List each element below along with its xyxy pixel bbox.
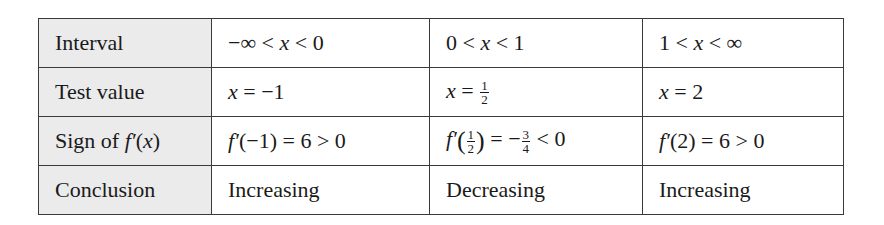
table-row-conclusion: Conclusion Increasing Decreasing Increas… <box>39 166 844 215</box>
row-header-interval: Interval <box>39 19 212 68</box>
function-f: f′ <box>446 126 457 151</box>
numerator: 1 <box>467 128 476 142</box>
cell-sign-1: f′(−1) = 6 > 0 <box>212 117 430 166</box>
cell-interval-3: 1 < x < ∞ <box>643 19 844 68</box>
text: = − <box>485 126 521 151</box>
text: (2) = 6 > 0 <box>670 128 764 153</box>
numerator: 3 <box>522 128 531 142</box>
text: ) <box>153 128 160 153</box>
paren: ( <box>457 126 466 155</box>
table-row-interval: Interval −∞ < x < 0 0 < x < 1 1 < x < ∞ <box>39 19 844 68</box>
row-header-sign: Sign of f′(x) <box>39 117 212 166</box>
text: = −1 <box>238 79 285 104</box>
text: Sign of <box>55 128 125 153</box>
function-f: f′ <box>659 128 670 153</box>
table-row-sign: Sign of f′(x) f′(−1) = 6 > 0 f′(12) = −3… <box>39 117 844 166</box>
var-x: x <box>693 30 703 55</box>
numerator: 1 <box>480 79 489 93</box>
var-x: x <box>228 79 238 104</box>
cell-test-value-2: x = 12 <box>430 68 643 117</box>
text: −∞ < <box>228 30 280 55</box>
var-x: x <box>280 30 290 55</box>
text: < 1 <box>490 30 524 55</box>
fraction: 34 <box>522 128 531 155</box>
text: < ∞ <box>703 30 742 55</box>
cell-test-value-3: x = 2 <box>643 68 844 117</box>
cell-test-value-1: x = −1 <box>212 68 430 117</box>
text: 1 < <box>659 30 693 55</box>
cell-interval-2: 0 < x < 1 <box>430 19 643 68</box>
table-row-test-value: Test value x = −1 x = 12 x = 2 <box>39 68 844 117</box>
function-f: f′ <box>125 128 136 153</box>
var-x: x <box>143 128 153 153</box>
row-header-test-value: Test value <box>39 68 212 117</box>
var-x: x <box>446 78 456 103</box>
text: < 0 <box>289 30 323 55</box>
text: = 2 <box>669 79 703 104</box>
text: (−1) = 6 > 0 <box>239 128 346 153</box>
sign-analysis-table: Interval −∞ < x < 0 0 < x < 1 1 < x < ∞ … <box>38 18 844 215</box>
row-header-conclusion: Conclusion <box>39 166 212 215</box>
cell-interval-1: −∞ < x < 0 <box>212 19 430 68</box>
text: 0 < <box>446 30 480 55</box>
text: = <box>456 78 479 103</box>
fraction: 12 <box>467 128 476 155</box>
denominator: 2 <box>480 93 489 106</box>
cell-conclusion-1: Increasing <box>212 166 430 215</box>
cell-conclusion-3: Increasing <box>643 166 844 215</box>
paren: ) <box>476 126 485 155</box>
fraction: 12 <box>480 79 489 106</box>
denominator: 2 <box>467 142 476 155</box>
function-f: f′ <box>228 128 239 153</box>
cell-sign-3: f′(2) = 6 > 0 <box>643 117 844 166</box>
denominator: 4 <box>522 142 531 155</box>
text: < 0 <box>531 126 565 151</box>
cell-sign-2: f′(12) = −34 < 0 <box>430 117 643 166</box>
var-x: x <box>480 30 490 55</box>
var-x: x <box>659 79 669 104</box>
cell-conclusion-2: Decreasing <box>430 166 643 215</box>
text: ( <box>136 128 143 153</box>
